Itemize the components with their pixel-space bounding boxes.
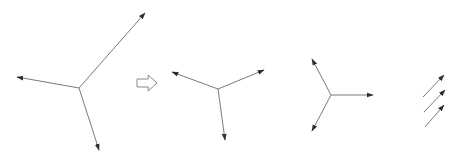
figure-1 <box>17 13 145 150</box>
transition-arrow <box>137 75 157 91</box>
vector-arrow-down <box>218 89 225 140</box>
vector-arrow-left <box>17 77 79 88</box>
vector-arrow-upper-left <box>312 59 331 95</box>
vector-arrow-lower-left <box>312 95 331 131</box>
vector-arrow-upper-right <box>218 70 264 89</box>
vector-arrow-upper-right <box>79 13 145 88</box>
figure-4 <box>423 75 445 127</box>
vector-arrow-down <box>79 88 99 150</box>
vector-diagram <box>0 0 463 158</box>
hollow-right-arrow-icon <box>137 75 157 91</box>
vector-arrow-upper-left <box>172 72 218 89</box>
figure-3 <box>312 59 373 131</box>
figure-2 <box>172 70 264 140</box>
